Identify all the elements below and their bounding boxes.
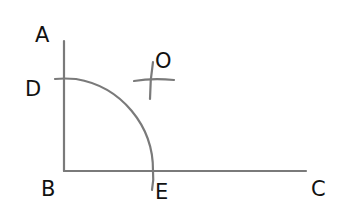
geometry-diagram: A D B E C O [0, 0, 355, 207]
label-d: D [25, 77, 41, 101]
label-o: O [155, 49, 172, 73]
arc-de [55, 79, 153, 191]
label-e: E [155, 180, 168, 204]
label-b: B [41, 177, 55, 201]
construction-arc-vertical [150, 62, 153, 99]
label-a: A [35, 23, 50, 47]
construction-arc-horizontal [134, 79, 174, 81]
label-c: C [311, 177, 326, 201]
